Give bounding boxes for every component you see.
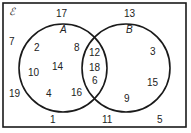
- a-only-value: 10: [28, 67, 40, 78]
- a-only-value: 2: [34, 42, 40, 53]
- intersection-value: 6: [92, 75, 98, 86]
- a-only-value: 16: [71, 87, 83, 98]
- outside-value: 19: [9, 88, 21, 99]
- outside-value: 7: [9, 36, 15, 47]
- outside-value: 1: [50, 114, 56, 125]
- outside-value: 5: [157, 114, 163, 125]
- a-only-value: 8: [74, 42, 80, 53]
- venn-diagram: ℰ A B 17 7 13 19 1 11 5 2 8 10 14 4 16 1…: [0, 0, 191, 133]
- outside-value: 11: [102, 114, 113, 125]
- intersection-value: 18: [89, 62, 101, 73]
- universal-set-symbol: ℰ: [9, 6, 16, 17]
- set-a-label: A: [59, 24, 67, 35]
- b-only-value: 15: [147, 77, 159, 88]
- a-only-value: 4: [46, 88, 52, 99]
- outside-value: 17: [56, 8, 68, 19]
- set-b-label: B: [126, 24, 133, 35]
- b-only-value: 9: [124, 93, 130, 104]
- outside-value: 13: [124, 8, 136, 19]
- a-only-value: 14: [52, 61, 64, 72]
- intersection-value: 12: [89, 47, 101, 58]
- b-only-value: 3: [150, 46, 156, 57]
